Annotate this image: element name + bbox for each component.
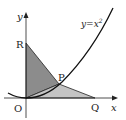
point-R-label: R — [16, 39, 24, 50]
point-Q-label: Q — [91, 102, 99, 113]
point-P-label: P — [58, 72, 65, 83]
curve-label: y=x2 — [80, 17, 103, 29]
y-axis-arrow-icon — [24, 12, 29, 18]
y-axis-label: y — [16, 11, 23, 22]
x-axis-arrow-icon — [112, 96, 118, 101]
x-axis-label: x — [111, 102, 117, 113]
origin-label: O — [14, 103, 22, 114]
parabola-diagram: y x y=x2 R P Q O — [0, 0, 126, 120]
